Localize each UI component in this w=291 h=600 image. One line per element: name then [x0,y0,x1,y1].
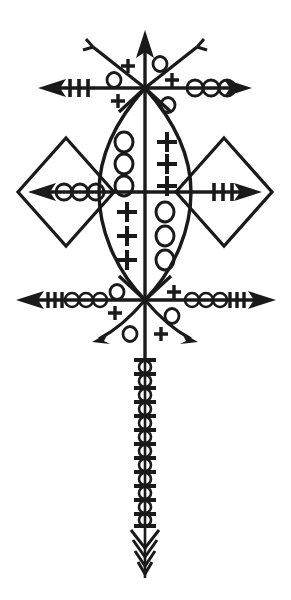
veve-sigil-illustration [0,0,291,600]
vesica-upper-right-crosses [157,132,177,196]
vesica-lower-left-crosses [117,202,137,270]
